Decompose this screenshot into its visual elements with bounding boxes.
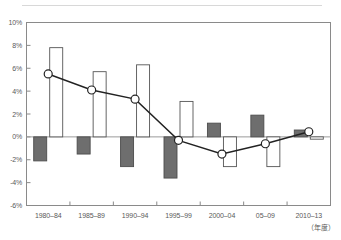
trend-marker xyxy=(218,150,226,158)
y-axis-tick-label: 4% xyxy=(0,88,22,95)
dark-bar xyxy=(121,137,134,167)
white-bar xyxy=(310,137,323,139)
y-axis-tick-label: -6% xyxy=(0,202,22,209)
trend-marker xyxy=(44,70,52,78)
dark-bar xyxy=(34,137,47,161)
y-axis-tick-label: 0% xyxy=(0,133,22,140)
trend-marker xyxy=(88,86,96,94)
dark-bar xyxy=(207,123,220,137)
white-bar xyxy=(180,101,193,136)
chart-plot-area xyxy=(0,0,341,240)
white-bar xyxy=(93,72,106,137)
y-axis-tick-label: -2% xyxy=(0,156,22,163)
dark-bar xyxy=(251,115,264,137)
y-axis-tick-label: -4% xyxy=(0,179,22,186)
trend-marker xyxy=(175,136,183,144)
x-axis-tick-label: 2010–13 xyxy=(279,212,339,219)
dark-bar xyxy=(77,137,90,154)
y-axis-tick-label: 10% xyxy=(0,19,22,26)
white-bar xyxy=(50,48,63,137)
chart-figure: 10%8%6%4%2%0%-2%-4%-6% 1980–841985–89199… xyxy=(0,0,341,240)
plot-border xyxy=(27,23,331,206)
y-axis-tick-label: 6% xyxy=(0,65,22,72)
y-axis-tick-label: 8% xyxy=(0,42,22,49)
trend-marker xyxy=(261,140,269,148)
x-axis-title: （年度） xyxy=(307,224,335,231)
y-axis-tick-label: 2% xyxy=(0,111,22,118)
trend-marker xyxy=(305,128,313,136)
trend-marker xyxy=(131,95,139,103)
